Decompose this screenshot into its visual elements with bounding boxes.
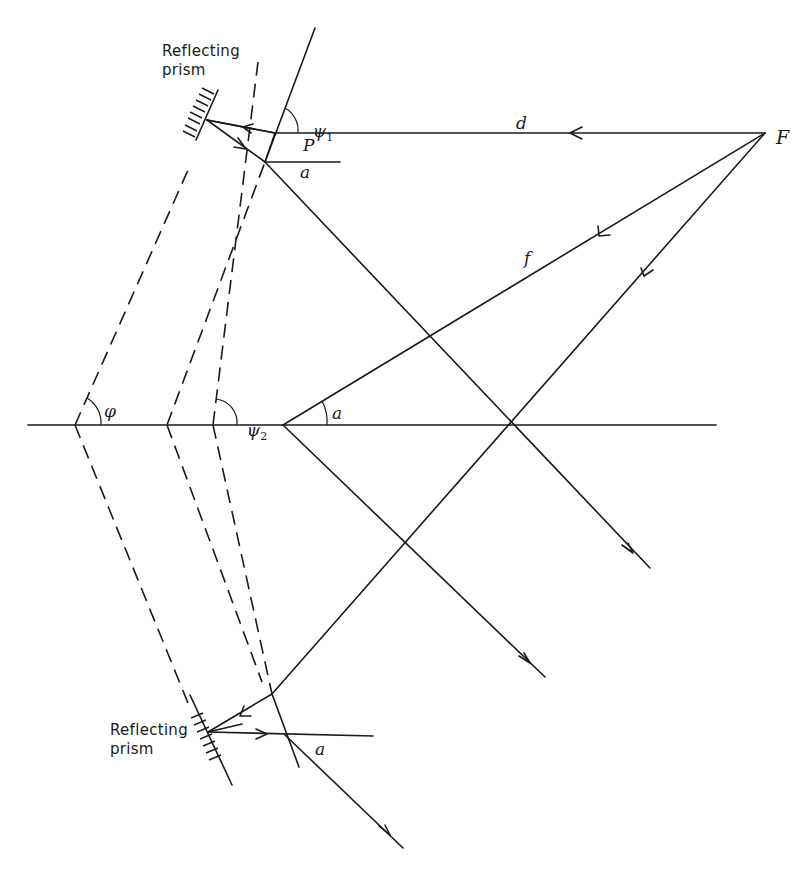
ray-f: [283, 133, 765, 425]
dashed-phi-lower: [75, 425, 190, 708]
label-alpha-center: a: [332, 405, 342, 422]
segment-P: [265, 133, 275, 162]
label-phi: φ: [104, 403, 116, 420]
ray-a-top: [265, 162, 650, 568]
arrow-F-lower: [641, 268, 653, 276]
label-reflecting-prism-top: Reflecting prism: [162, 42, 240, 80]
label-f: f: [524, 250, 530, 267]
ray-into-prism-bottom: [208, 694, 272, 732]
arc-psi2: [216, 399, 237, 425]
prism-mirror-bottom: [190, 695, 232, 785]
dashed-psi2-upper: [213, 62, 258, 425]
arc-alpha-center: [322, 401, 327, 425]
ray-F-lower: [272, 133, 765, 694]
label-F: F: [776, 128, 789, 147]
surface-line-bottom: [272, 694, 299, 767]
label-alpha-top: a: [300, 164, 310, 181]
label-d: d: [516, 115, 527, 132]
label-alpha-bottom: a: [315, 741, 325, 758]
ray-center-down: [283, 425, 545, 677]
label-psi2: ψ2: [236, 405, 267, 439]
dashed-psi2-lower: [213, 425, 272, 694]
prism-hatch-top: [183, 88, 214, 137]
dashed-phi-upper: [75, 170, 188, 425]
label-psi1: ψ1: [302, 106, 333, 140]
arrow-a-bottom: [379, 825, 390, 835]
label-reflecting-prism-bottom: Reflecting prism: [110, 721, 188, 759]
dashed-mid-upper: [167, 162, 265, 425]
ray-from-prism-bottom: [208, 732, 373, 736]
arc-psi1: [285, 108, 298, 133]
dashed-mid-lower: [167, 425, 262, 682]
arc-phi: [87, 398, 101, 425]
ray-prism-short: [208, 724, 242, 732]
